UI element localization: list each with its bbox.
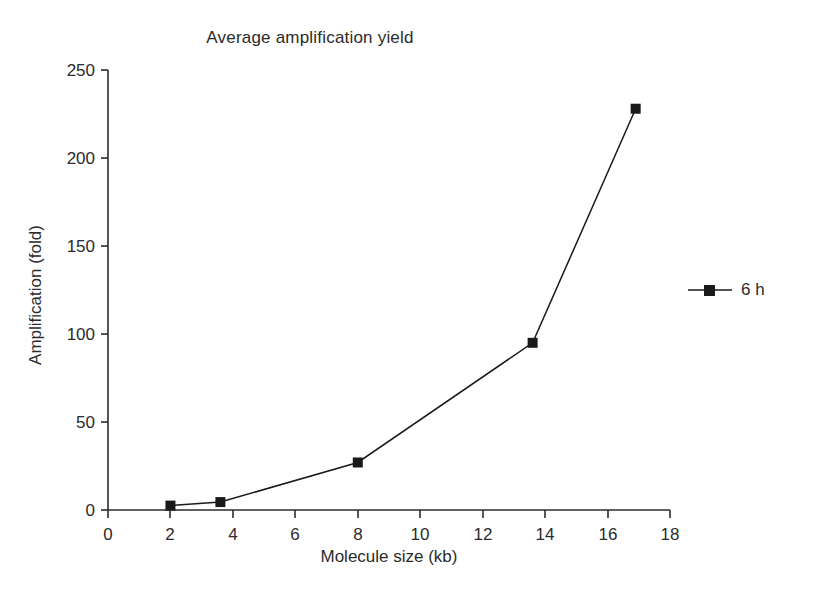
- legend-label-6h: 6 h: [741, 280, 765, 300]
- x-tick-label: 4: [228, 525, 237, 544]
- chart-figure: Average amplification yield 0 50 100 150…: [0, 0, 813, 593]
- data-point-marker: [165, 501, 175, 511]
- x-axis-ticks: [108, 510, 670, 518]
- y-tick-label: 150: [67, 237, 95, 256]
- y-tick-label: 0: [86, 501, 95, 520]
- legend-marker-icon: [688, 282, 732, 298]
- series-line: [170, 109, 635, 506]
- x-tick-label: 18: [661, 525, 680, 544]
- y-axis-ticks: [101, 70, 108, 510]
- x-tick-label: 0: [103, 525, 112, 544]
- x-tick-label: 8: [353, 525, 362, 544]
- y-axis-label: Amplification (fold): [26, 175, 46, 415]
- x-tick-label: 6: [290, 525, 299, 544]
- x-tick-label: 14: [536, 525, 555, 544]
- y-tick-label: 250: [67, 61, 95, 80]
- data-point-marker: [215, 497, 225, 507]
- x-tick-label: 10: [411, 525, 430, 544]
- data-point-marker: [528, 338, 538, 348]
- data-series-6h: [165, 104, 640, 511]
- y-tick-label: 200: [67, 149, 95, 168]
- y-tick-labels: 0 50 100 150 200 250: [67, 61, 95, 520]
- x-tick-label: 12: [474, 525, 493, 544]
- y-tick-label: 100: [67, 325, 95, 344]
- x-tick-labels: 0 2 4 6 8 10 12 14 16 18: [103, 525, 679, 544]
- data-point-marker: [631, 104, 641, 114]
- chart-legend: 6 h: [688, 280, 765, 300]
- x-tick-label: 16: [599, 525, 618, 544]
- y-tick-label: 50: [76, 413, 95, 432]
- data-point-marker: [353, 457, 363, 467]
- x-tick-label: 2: [165, 525, 174, 544]
- x-axis-label: Molecule size (kb): [108, 547, 670, 567]
